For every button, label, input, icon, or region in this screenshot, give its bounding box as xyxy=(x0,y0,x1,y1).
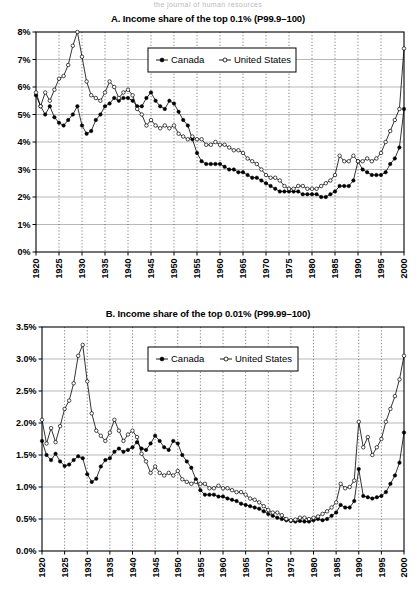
svg-text:1960: 1960 xyxy=(218,558,228,578)
svg-text:2000: 2000 xyxy=(399,558,409,578)
chart-page: the journal of human resources A. Income… xyxy=(0,0,416,609)
panel-b-plot: 0.0%0.5%1.0%1.5%2.0%2.5%3.0%3.5%19201925… xyxy=(0,321,416,609)
svg-text:1930: 1930 xyxy=(83,558,93,578)
svg-text:1.0%: 1.0% xyxy=(16,482,37,492)
legend-label-canada: Canada xyxy=(171,353,205,364)
svg-text:2000: 2000 xyxy=(399,259,409,279)
svg-text:1940: 1940 xyxy=(123,259,133,279)
svg-text:1945: 1945 xyxy=(146,259,156,279)
svg-text:1985: 1985 xyxy=(332,558,342,578)
svg-text:1955: 1955 xyxy=(192,259,202,279)
svg-text:0.0%: 0.0% xyxy=(16,546,37,556)
svg-text:1930: 1930 xyxy=(77,259,87,279)
svg-text:1940: 1940 xyxy=(128,558,138,578)
page-header-artifact: the journal of human resources xyxy=(0,0,416,9)
svg-text:4%: 4% xyxy=(17,137,30,147)
svg-text:1970: 1970 xyxy=(261,259,271,279)
svg-text:0%: 0% xyxy=(17,247,30,257)
svg-text:1920: 1920 xyxy=(37,558,47,578)
svg-text:1925: 1925 xyxy=(60,558,70,578)
svg-text:0.5%: 0.5% xyxy=(16,514,37,524)
svg-text:8%: 8% xyxy=(17,27,30,37)
svg-text:1985: 1985 xyxy=(330,259,340,279)
svg-text:1965: 1965 xyxy=(241,558,251,578)
svg-text:1935: 1935 xyxy=(105,558,115,578)
chart-panel-a: A. Income share of the top 0.1% (P99.9–1… xyxy=(0,12,416,307)
svg-text:7%: 7% xyxy=(17,55,30,65)
svg-text:1980: 1980 xyxy=(309,558,319,578)
svg-text:1920: 1920 xyxy=(31,259,41,279)
panel-a-svg: 0%1%2%3%4%5%6%7%8%1920192519301935194019… xyxy=(0,26,416,307)
svg-text:1950: 1950 xyxy=(169,259,179,279)
svg-text:1%: 1% xyxy=(17,220,30,230)
svg-text:1980: 1980 xyxy=(307,259,317,279)
svg-text:3%: 3% xyxy=(17,165,30,175)
panel-a-title: A. Income share of the top 0.1% (P99.9–1… xyxy=(0,12,416,26)
svg-text:1975: 1975 xyxy=(286,558,296,578)
svg-text:3.5%: 3.5% xyxy=(16,322,37,332)
svg-text:1990: 1990 xyxy=(353,259,363,279)
svg-text:3.0%: 3.0% xyxy=(16,354,37,364)
legend-label-canada: Canada xyxy=(171,54,205,65)
svg-text:1970: 1970 xyxy=(264,558,274,578)
svg-text:2.0%: 2.0% xyxy=(16,418,37,428)
svg-text:1960: 1960 xyxy=(215,259,225,279)
svg-text:1.5%: 1.5% xyxy=(16,450,37,460)
svg-text:1995: 1995 xyxy=(377,558,387,578)
svg-text:2%: 2% xyxy=(17,192,30,202)
legend-label-united-states: United States xyxy=(235,353,292,364)
panel-b-svg: 0.0%0.5%1.0%1.5%2.0%2.5%3.0%3.5%19201925… xyxy=(0,321,416,609)
svg-text:1955: 1955 xyxy=(196,558,206,578)
chart-panel-b: B. Income share of the top 0.01% (P99.99… xyxy=(0,307,416,609)
svg-text:1925: 1925 xyxy=(54,259,64,279)
panel-a-plot: 0%1%2%3%4%5%6%7%8%1920192519301935194019… xyxy=(0,26,416,307)
svg-text:1965: 1965 xyxy=(238,259,248,279)
svg-text:1990: 1990 xyxy=(354,558,364,578)
legend-label-united-states: United States xyxy=(234,54,291,65)
svg-text:1935: 1935 xyxy=(100,259,110,279)
svg-text:1945: 1945 xyxy=(151,558,161,578)
svg-text:6%: 6% xyxy=(17,82,30,92)
panel-b-title: B. Income share of the top 0.01% (P99.99… xyxy=(0,307,416,321)
svg-text:2.5%: 2.5% xyxy=(16,386,37,396)
svg-text:5%: 5% xyxy=(17,110,30,120)
svg-text:1950: 1950 xyxy=(173,558,183,578)
svg-text:1995: 1995 xyxy=(376,259,386,279)
svg-text:1975: 1975 xyxy=(284,259,294,279)
